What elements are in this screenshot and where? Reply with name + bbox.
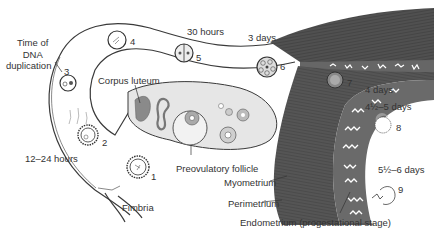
fimbria-illustration (98, 186, 120, 190)
stage-number-1: 1 (151, 172, 156, 182)
label-4-days: 4 days (365, 85, 393, 95)
label-corpus-luteum: Corpus luteum (98, 76, 160, 86)
label-5-6-days: 5½–6 days (378, 165, 424, 175)
stage-number-7: 7 (347, 78, 352, 88)
label-12-24-hours: 12–24 hours (25, 154, 78, 164)
label-perimetrium: Perimetrium (228, 199, 279, 209)
label-30-hours: 30 hours (187, 27, 224, 37)
stage-number-4: 4 (130, 37, 135, 47)
stage-number-8: 8 (396, 123, 401, 133)
label-4-5-days: 4½–5 days (365, 102, 411, 112)
stage-number-2: 2 (102, 138, 107, 148)
stage-number-3: 3 (64, 67, 69, 77)
label-preovulatory-follicle: Preovulatory follicle (176, 164, 258, 174)
stage-4-zygote (108, 31, 126, 49)
stage-number-9: 9 (398, 185, 403, 195)
label-time-of-dna: Time of DNA duplication (14, 38, 51, 71)
label-fimbria: Fimbria (122, 203, 154, 213)
stage-6-morula (257, 57, 277, 77)
stage-7-advanced-morula (327, 72, 343, 88)
label-line: Time of (14, 38, 51, 48)
stage-9-implanting-blastocyst (372, 187, 395, 205)
label-line: DNA (14, 50, 51, 60)
ovary (128, 82, 277, 150)
label-line: duplication (6, 61, 51, 71)
label-endometrium: Endometrium (progestational stage) (240, 218, 391, 228)
label-myometrium: Myometrium (224, 178, 276, 188)
stage-3-pronuclei (60, 75, 76, 91)
stage-2-fertilization (69, 108, 98, 145)
stage-number-5: 5 (196, 53, 201, 63)
diagram: Time of DNA duplication 12–24 hours 30 h… (0, 0, 434, 235)
stage-number-6: 6 (280, 62, 285, 72)
stage-5-two-cell (175, 44, 193, 62)
label-3-days: 3 days (248, 33, 276, 43)
stage-1-oocyte (127, 156, 149, 178)
